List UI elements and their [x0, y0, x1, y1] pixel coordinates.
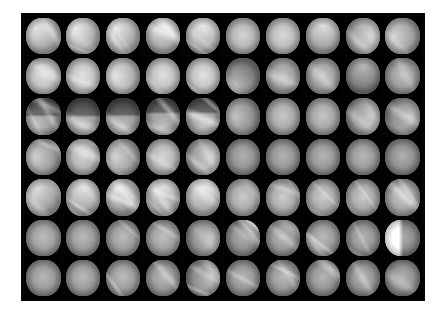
grid-cell-r7-c9[interactable]: [343, 259, 382, 298]
grid-cell-r1-c6[interactable]: [224, 16, 263, 55]
grid-cell-r7-c1[interactable]: [24, 259, 63, 298]
grid-cell-r5-c9[interactable]: [343, 178, 382, 217]
lens-vignette: [226, 220, 260, 256]
grid-cell-r2-c6[interactable]: [224, 56, 263, 95]
grid-cell-r3-c7[interactable]: [263, 97, 302, 136]
grid-cell-r5-c5[interactable]: [184, 178, 223, 217]
grid-cell-r3-c10[interactable]: [383, 97, 422, 136]
grid-cell-r6-c10[interactable]: [383, 218, 422, 257]
grid-cell-r6-c6[interactable]: [224, 218, 263, 257]
grid-cell-r2-c5[interactable]: [184, 56, 223, 95]
lens-vignette: [106, 139, 140, 175]
grid-cell-r5-c1[interactable]: [24, 178, 63, 217]
endoscopy-frame: [184, 259, 223, 298]
lens-vignette: [106, 98, 140, 134]
grid-cell-r5-c2[interactable]: [64, 178, 103, 217]
lens-vignette: [346, 220, 380, 256]
grid-cell-r6-c3[interactable]: [104, 218, 143, 257]
endoscopy-frame: [104, 16, 143, 55]
grid-cell-r7-c5[interactable]: [184, 259, 223, 298]
grid-cell-r6-c2[interactable]: [64, 218, 103, 257]
grid-cell-r5-c4[interactable]: [144, 178, 183, 217]
lens-vignette: [26, 139, 60, 175]
lens-vignette: [385, 139, 419, 175]
lens-vignette: [146, 179, 180, 215]
tissue-disc: [226, 220, 260, 256]
endoscopy-frame: [303, 97, 342, 136]
grid-cell-r2-c8[interactable]: [303, 56, 342, 95]
grid-cell-r4-c5[interactable]: [184, 137, 223, 176]
grid-cell-r4-c3[interactable]: [104, 137, 143, 176]
grid-cell-r1-c3[interactable]: [104, 16, 143, 55]
grid-cell-r3-c6[interactable]: [224, 97, 263, 136]
grid-cell-r4-c2[interactable]: [64, 137, 103, 176]
grid-cell-r6-c5[interactable]: [184, 218, 223, 257]
grid-cell-r1-c10[interactable]: [383, 16, 422, 55]
endoscopy-frame: [144, 178, 183, 217]
grid-cell-r1-c2[interactable]: [64, 16, 103, 55]
grid-cell-r2-c10[interactable]: [383, 56, 422, 95]
grid-cell-r3-c1[interactable]: [24, 97, 63, 136]
tissue-disc: [66, 18, 100, 54]
endoscopy-frame: [64, 218, 103, 257]
grid-cell-r7-c10[interactable]: [383, 259, 422, 298]
grid-cell-r7-c2[interactable]: [64, 259, 103, 298]
grid-cell-r6-c1[interactable]: [24, 218, 63, 257]
tissue-disc: [226, 139, 260, 175]
grid-cell-r7-c4[interactable]: [144, 259, 183, 298]
grid-cell-r1-c7[interactable]: [263, 16, 302, 55]
tissue-disc: [66, 260, 100, 296]
grid-cell-r7-c6[interactable]: [224, 259, 263, 298]
tissue-disc: [26, 139, 60, 175]
grid-cell-r3-c3[interactable]: [104, 97, 143, 136]
endoscopy-frame: [24, 97, 63, 136]
grid-cell-r4-c10[interactable]: [383, 137, 422, 176]
grid-cell-r4-c6[interactable]: [224, 137, 263, 176]
grid-cell-r5-c6[interactable]: [224, 178, 263, 217]
lens-vignette: [146, 139, 180, 175]
grid-cell-r3-c9[interactable]: [343, 97, 382, 136]
grid-cell-r2-c7[interactable]: [263, 56, 302, 95]
grid-cell-r6-c4[interactable]: [144, 218, 183, 257]
grid-cell-r1-c1[interactable]: [24, 16, 63, 55]
grid-cell-r3-c2[interactable]: [64, 97, 103, 136]
tissue-disc: [146, 220, 180, 256]
lens-vignette: [186, 58, 220, 94]
grid-cell-r6-c9[interactable]: [343, 218, 382, 257]
grid-cell-r7-c3[interactable]: [104, 259, 143, 298]
grid-cell-r4-c1[interactable]: [24, 137, 63, 176]
grid-cell-r7-c8[interactable]: [303, 259, 342, 298]
grid-cell-r1-c8[interactable]: [303, 16, 342, 55]
tissue-disc: [346, 98, 380, 134]
grid-cell-r1-c4[interactable]: [144, 16, 183, 55]
grid-cell-r3-c5[interactable]: [184, 97, 223, 136]
grid-cell-r4-c7[interactable]: [263, 137, 302, 176]
grid-cell-r4-c9[interactable]: [343, 137, 382, 176]
grid-cell-r7-c7[interactable]: [263, 259, 302, 298]
grid-cell-r5-c10[interactable]: [383, 178, 422, 217]
lens-vignette: [66, 58, 100, 94]
endoscopy-frame: [24, 16, 63, 55]
grid-cell-r2-c2[interactable]: [64, 56, 103, 95]
grid-cell-r1-c9[interactable]: [343, 16, 382, 55]
grid-cell-r6-c7[interactable]: [263, 218, 302, 257]
endoscopy-frame: [303, 137, 342, 176]
grid-cell-r1-c5[interactable]: [184, 16, 223, 55]
tissue-disc: [146, 18, 180, 54]
grid-cell-r3-c4[interactable]: [144, 97, 183, 136]
tissue-disc: [146, 58, 180, 94]
grid-cell-r2-c9[interactable]: [343, 56, 382, 95]
grid-cell-r5-c3[interactable]: [104, 178, 143, 217]
grid-cell-r4-c8[interactable]: [303, 137, 342, 176]
grid-cell-r2-c1[interactable]: [24, 56, 63, 95]
tissue-disc: [346, 18, 380, 54]
lens-vignette: [186, 260, 220, 296]
grid-cell-r5-c7[interactable]: [263, 178, 302, 217]
grid-cell-r3-c8[interactable]: [303, 97, 342, 136]
grid-cell-r4-c4[interactable]: [144, 137, 183, 176]
grid-cell-r2-c3[interactable]: [104, 56, 143, 95]
tissue-disc: [385, 98, 419, 134]
grid-cell-r6-c8[interactable]: [303, 218, 342, 257]
grid-cell-r2-c4[interactable]: [144, 56, 183, 95]
grid-cell-r5-c8[interactable]: [303, 178, 342, 217]
